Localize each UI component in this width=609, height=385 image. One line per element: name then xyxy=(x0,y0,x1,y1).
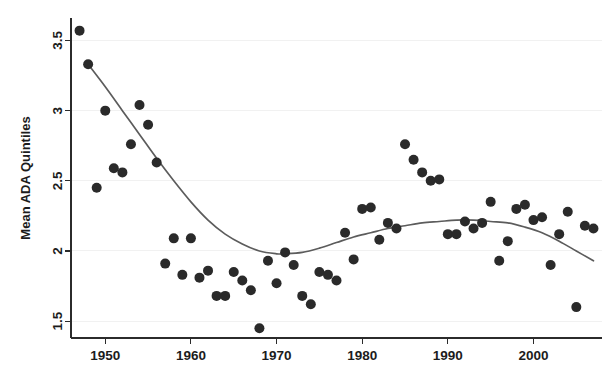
data-point xyxy=(426,176,436,186)
data-point xyxy=(588,224,598,234)
data-point xyxy=(143,120,153,130)
data-point xyxy=(357,204,367,214)
data-point xyxy=(349,254,359,264)
data-point xyxy=(314,267,324,277)
data-point xyxy=(374,235,384,245)
data-point xyxy=(194,273,204,283)
data-point xyxy=(152,158,162,168)
data-point xyxy=(83,59,93,69)
data-point xyxy=(100,106,110,116)
data-point xyxy=(254,323,264,333)
data-point xyxy=(117,167,127,177)
chart-figure: 1.522.533.5195019601970198019902000Mean … xyxy=(0,0,609,385)
data-point xyxy=(323,270,333,280)
scatter-plot: 1.522.533.5195019601970198019902000Mean … xyxy=(0,0,609,385)
data-point xyxy=(400,139,410,149)
x-tick-label: 2000 xyxy=(518,348,548,363)
data-point xyxy=(186,233,196,243)
x-tick-label: 1970 xyxy=(262,348,292,363)
data-point xyxy=(443,229,453,239)
data-point xyxy=(92,183,102,193)
y-tick-label: 3.5 xyxy=(50,31,65,50)
data-point xyxy=(451,229,461,239)
data-point xyxy=(272,278,282,288)
data-point xyxy=(75,26,85,36)
data-point xyxy=(434,174,444,184)
y-axis-title: Mean ADA Quintiles xyxy=(18,116,33,239)
data-point xyxy=(571,302,581,312)
data-point xyxy=(289,260,299,270)
data-point xyxy=(494,256,504,266)
data-point xyxy=(340,228,350,238)
data-point xyxy=(160,259,170,269)
x-tick-label: 1960 xyxy=(176,348,206,363)
x-tick-label: 1950 xyxy=(90,348,120,363)
y-tick-label: 1.5 xyxy=(50,311,65,330)
data-point xyxy=(237,275,247,285)
data-point xyxy=(486,197,496,207)
data-point xyxy=(229,267,239,277)
data-point xyxy=(220,291,230,301)
data-point xyxy=(366,202,376,212)
data-point xyxy=(520,200,530,210)
data-point xyxy=(263,256,273,266)
data-point xyxy=(203,266,213,276)
data-point xyxy=(280,247,290,257)
data-point xyxy=(528,215,538,225)
data-point xyxy=(135,100,145,110)
data-point xyxy=(469,224,479,234)
data-point xyxy=(297,291,307,301)
data-point xyxy=(212,291,222,301)
x-tick-label: 1980 xyxy=(347,348,377,363)
data-point xyxy=(306,299,316,309)
data-point xyxy=(554,229,564,239)
data-point xyxy=(109,163,119,173)
data-point xyxy=(332,275,342,285)
data-point xyxy=(460,217,470,227)
data-point xyxy=(391,224,401,234)
y-tick-label: 2 xyxy=(50,247,65,255)
data-point xyxy=(580,221,590,231)
data-point xyxy=(537,212,547,222)
data-point xyxy=(417,167,427,177)
data-point xyxy=(563,207,573,217)
data-point xyxy=(503,236,513,246)
data-point xyxy=(177,270,187,280)
data-point xyxy=(477,218,487,228)
data-point xyxy=(409,155,419,165)
data-point xyxy=(246,285,256,295)
y-tick-label: 3 xyxy=(50,106,65,114)
data-point xyxy=(126,139,136,149)
data-point xyxy=(169,233,179,243)
data-point xyxy=(383,218,393,228)
data-point xyxy=(511,204,521,214)
data-point xyxy=(546,260,556,270)
x-tick-label: 1990 xyxy=(433,348,463,363)
y-tick-label: 2.5 xyxy=(50,171,65,190)
